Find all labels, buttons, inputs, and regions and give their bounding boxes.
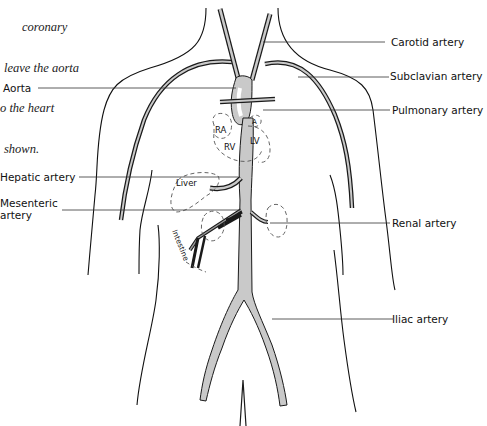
hepatic-artery — [210, 178, 241, 189]
label-ra: RA — [215, 125, 227, 135]
leader-lines — [38, 42, 393, 319]
label-la: A — [252, 118, 257, 126]
label-iliac-artery: Iliac artery — [392, 313, 448, 325]
organ-outlines — [171, 113, 287, 272]
label-renal-artery: Renal artery — [392, 217, 457, 229]
label-pulmonary-artery: Pulmonary artery — [392, 104, 483, 116]
label-hepatic-artery: Hepatic artery — [0, 171, 75, 183]
label-subclavian-artery: Subclavian artery — [390, 70, 483, 82]
carotid-arteries — [220, 9, 270, 80]
label-aorta: Aorta — [3, 82, 31, 94]
left-labels: Aorta Hepatic artery Mesenteric artery — [0, 82, 75, 221]
right-labels: Carotid artery Subclavian artery Pulmona… — [390, 36, 483, 325]
intestine-outline — [186, 262, 206, 272]
lower-artery-stub — [240, 380, 246, 426]
label-rv: RV — [224, 142, 235, 152]
label-lv: LV — [250, 136, 260, 146]
label-carotid-artery: Carotid artery — [391, 36, 464, 48]
label-mesenteric-line2: artery — [0, 209, 32, 221]
diagram-svg: RA RV LV A Liver Intestine Aorta Hepatic… — [0, 0, 487, 426]
kidney-outline — [266, 204, 287, 237]
arterial-system-diagram: coronary leave the aorta o the heart sho… — [0, 0, 487, 426]
label-mesenteric-line1: Mesenteric — [0, 197, 58, 209]
label-intestine: Intestine — [170, 228, 191, 262]
label-liver: Liver — [176, 178, 197, 188]
